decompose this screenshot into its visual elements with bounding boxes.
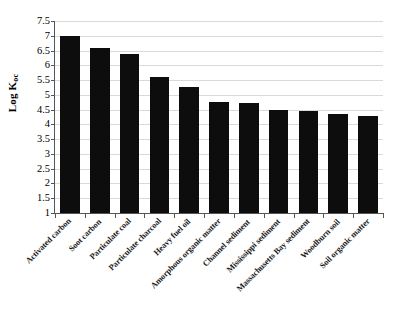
y-axis-tick-label: 2.5 [24,164,50,174]
x-axis-tick-label: Mississippi sediment [225,217,282,274]
bar [358,116,378,213]
y-axis-tick-label: 7.5 [24,16,50,26]
y-axis-tick-label: 4.5 [24,105,50,115]
x-axis-tick-label: Soil organic matter [318,217,372,271]
y-axis-tick-label: 6 [24,60,50,70]
x-axis-tick-labels: Activated carbonSoot carbonParticulate c… [0,213,402,324]
bar-chart: Log Koc 11.522.533.544.555.566.577.5 Act… [0,0,402,324]
bar [90,48,110,213]
y-axis-tick-label: 4 [24,119,50,129]
y-axis-tick-label: 2 [24,178,50,188]
y-axis-tick-label: 1.5 [24,193,50,203]
bars-container [55,21,383,213]
y-axis-title-subscript: oc [11,74,20,82]
y-axis-tick-label: 5.5 [24,75,50,85]
bar [179,87,199,213]
bar [328,114,348,213]
x-axis-tick-label: Activated carbon [24,217,73,266]
bar [299,111,319,213]
bar [120,54,140,214]
y-axis-tick-label: 3 [24,149,50,159]
y-axis-title-base: Log K [6,82,18,113]
y-axis-tick-label: 6.5 [24,46,50,56]
bar [269,110,289,213]
x-axis-tick-label: Particulate charcoal [107,217,163,273]
bar [150,77,170,213]
y-axis-tick-label: 3.5 [24,134,50,144]
plot-area [54,21,383,214]
bar [60,36,80,213]
y-axis-tick-label: 7 [24,31,50,41]
y-axis-title: Log Koc [6,58,20,128]
y-axis-tick-label: 5 [24,90,50,100]
bar [239,103,259,213]
bar [209,102,229,213]
